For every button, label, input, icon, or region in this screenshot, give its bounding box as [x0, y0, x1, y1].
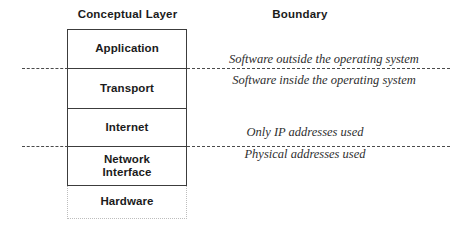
column-heading-boundary: Boundary	[240, 8, 360, 20]
layer-box-network-interface: Network Interface	[68, 147, 186, 185]
layer-label-network-interface: Network Interface	[103, 153, 152, 180]
boundary-rule-1-left-segment	[22, 68, 68, 69]
layer-label-internet: Internet	[106, 121, 149, 135]
conceptual-layer-stack: Application Transport Internet Network I…	[67, 29, 187, 186]
boundary-note-only-ip-addresses: Only IP addresses used	[200, 125, 410, 140]
layer-label-hardware: Hardware	[100, 195, 153, 209]
layer-box-hardware: Hardware	[67, 186, 187, 219]
boundary-rule-1-right-segment	[187, 68, 450, 69]
layer-box-internet: Internet	[68, 109, 186, 147]
boundary-rule-2-left-segment	[22, 146, 68, 147]
diagram-canvas: Conceptual Layer Boundary Application Tr…	[0, 0, 462, 229]
layer-box-application: Application	[68, 30, 186, 69]
column-heading-conceptual-layer: Conceptual Layer	[68, 8, 187, 20]
boundary-note-physical-addresses: Physical addresses used	[200, 147, 410, 162]
boundary-note-software-outside: Software outside the operating system	[200, 52, 448, 67]
boundary-note-software-inside: Software inside the operating system	[200, 73, 448, 88]
layer-box-transport: Transport	[68, 69, 186, 109]
layer-label-application: Application	[95, 42, 159, 56]
layer-label-transport: Transport	[100, 82, 154, 96]
